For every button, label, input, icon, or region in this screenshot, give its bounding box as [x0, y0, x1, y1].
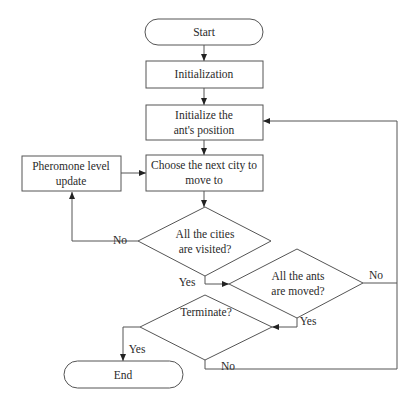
edge-cities-pheromone: [72, 192, 138, 241]
pheromone-update-node: Pheromone level update: [22, 156, 121, 191]
terminate-no-label: No: [221, 360, 235, 372]
end-label: End: [114, 369, 133, 381]
terminate-decision: Terminate?: [140, 295, 272, 360]
initialize-position-line2: ant's position: [174, 124, 235, 137]
flowchart: Start Initialization Initialize the ant'…: [0, 0, 416, 405]
initialize-position-line1: Initialize the: [175, 109, 233, 121]
cities-yes-label: Yes: [179, 276, 196, 288]
ants-no-label: No: [369, 269, 383, 281]
initialization-node: Initialization: [146, 61, 263, 88]
cities-no-label: No: [113, 234, 127, 246]
end-node: End: [64, 361, 183, 388]
ants-moved-line1: All the ants: [271, 270, 325, 282]
pheromone-line1: Pheromone level: [32, 160, 110, 172]
ants-yes-label: Yes: [300, 315, 317, 327]
edge-cities-ants: [205, 276, 229, 284]
ants-moved-line2: are moved?: [271, 285, 324, 297]
ants-moved-decision: All the ants are moved?: [229, 249, 363, 318]
choose-line1: Choose the next city to: [151, 159, 257, 172]
edge-loop-initpos: [263, 121, 397, 369]
start-node: Start: [145, 19, 263, 45]
terminate-yes-label: Yes: [129, 343, 146, 355]
cities-visited-decision: All the cities are visited?: [138, 207, 271, 276]
edge-ants-terminate: [272, 318, 297, 327]
cities-visited-line2: are visited?: [179, 243, 232, 255]
initialize-position-node: Initialize the ant's position: [146, 105, 263, 140]
pheromone-line2: update: [56, 175, 87, 188]
choose-line2: move to: [185, 174, 223, 186]
initialization-label: Initialization: [175, 68, 234, 80]
terminate-label: Terminate?: [180, 306, 232, 318]
start-label: Start: [193, 26, 216, 38]
choose-next-city-node: Choose the next city to move to: [146, 155, 263, 191]
cities-visited-line1: All the cities: [176, 228, 235, 240]
